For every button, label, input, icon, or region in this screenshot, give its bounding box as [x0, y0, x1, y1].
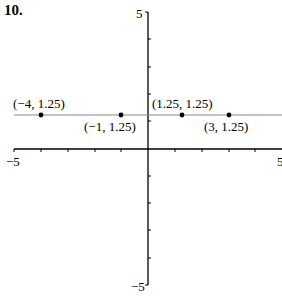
x-min-label: −5	[6, 154, 20, 169]
x-max-label: 5	[277, 154, 282, 169]
label-point-neg1: (−1, 1.25)	[84, 119, 136, 134]
coordinate-plane: (−4, 1.25) (−1, 1.25) (1.25, 1.25) (3, 1…	[0, 0, 282, 296]
point-neg4	[39, 113, 44, 118]
point-1.25	[180, 113, 185, 118]
label-point-1.25: (1.25, 1.25)	[152, 96, 213, 111]
label-point-3: (3, 1.25)	[204, 119, 248, 134]
point-3	[227, 113, 232, 118]
point-neg1	[119, 113, 124, 118]
label-point-neg4: (−4, 1.25)	[13, 96, 65, 111]
y-min-label: −5	[131, 279, 145, 294]
y-max-label: 5	[136, 6, 143, 21]
